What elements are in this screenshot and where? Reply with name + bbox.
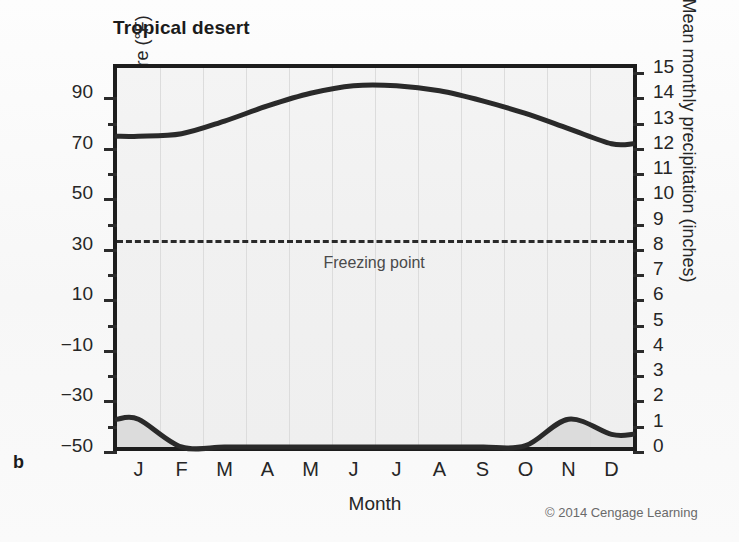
y-axis-right-label: 4	[653, 334, 664, 356]
y-axis-right-tick	[633, 451, 644, 454]
y-axis-right-label: 7	[653, 258, 664, 280]
y-axis-right-label: 9	[653, 208, 664, 230]
y-axis-left-tick	[108, 173, 117, 176]
panel-label: b	[13, 452, 24, 473]
y-axis-left-tick	[108, 325, 117, 328]
y-axis-right-tick	[633, 375, 644, 378]
y-axis-left-label: 70	[25, 132, 93, 154]
temperature-curve	[117, 85, 633, 145]
x-axis-month-label: M	[203, 458, 247, 481]
y-axis-right-label: 14	[653, 81, 674, 103]
y-axis-right-label: 8	[653, 233, 664, 255]
x-axis-month-label: D	[590, 458, 634, 481]
y-axis-right-label: 0	[653, 435, 664, 457]
climate-graph-figure: Tropical desert b Mean monthly temperatu…	[0, 0, 739, 542]
x-axis-month-label: F	[160, 458, 204, 481]
x-axis-month-label: O	[504, 458, 548, 481]
x-axis-month-label: A	[246, 458, 290, 481]
x-axis-month-label: A	[418, 458, 462, 481]
data-curves	[117, 68, 641, 455]
y-axis-left-label: 10	[25, 283, 93, 305]
y-axis-left-tick	[104, 198, 117, 201]
y-axis-right-tick	[633, 224, 644, 227]
y-axis-left-label: −50	[25, 435, 93, 457]
y-axis-right-label: 11	[653, 157, 673, 179]
y-axis-right-label: 15	[653, 56, 674, 78]
y-axis-right-tick	[633, 274, 644, 277]
y-axis-right-tick	[633, 299, 644, 302]
y-axis-right-label: 3	[653, 359, 664, 381]
y-axis-right-tick	[633, 249, 644, 252]
y-axis-right-label: 12	[653, 132, 674, 154]
y-axis-right-label: 2	[653, 384, 664, 406]
y-axis-right-label: 6	[653, 283, 664, 305]
y-axis-right-label: 5	[653, 309, 664, 331]
y-axis-left-tick	[104, 451, 117, 454]
y-axis-left-label: −30	[25, 384, 93, 406]
y-axis-left-tick	[104, 249, 117, 252]
x-axis-month-label: J	[375, 458, 419, 481]
y-axis-left-label: −10	[25, 334, 93, 356]
y-axis-right-tick	[633, 350, 644, 353]
x-axis-month-label: S	[461, 458, 505, 481]
y-axis-right-tick	[633, 97, 644, 100]
x-axis-month-label: J	[332, 458, 376, 481]
y-axis-right-tick	[633, 123, 644, 126]
y-axis-left-tick	[104, 299, 117, 302]
y-axis-right-tick	[633, 325, 644, 328]
y-axis-right-title: Mean monthly precipitation (inches)	[678, 0, 699, 291]
y-axis-right-label: 1	[653, 410, 664, 432]
copyright-notice: © 2014 Cengage Learning	[545, 505, 698, 520]
y-axis-left-tick	[104, 350, 117, 353]
y-axis-left-tick	[108, 123, 117, 126]
y-axis-right-tick	[633, 173, 644, 176]
y-axis-left-label: 90	[25, 81, 93, 103]
x-axis-month-label: M	[289, 458, 333, 481]
y-axis-right-label: 10	[653, 182, 674, 204]
y-axis-left-tick	[104, 400, 117, 403]
y-axis-left-label: 30	[25, 233, 93, 255]
plot-area: Freezing point	[113, 64, 637, 451]
y-axis-right-tick	[633, 198, 644, 201]
y-axis-left-tick	[108, 224, 117, 227]
x-axis-month-label: N	[547, 458, 591, 481]
y-axis-left-tick	[108, 375, 117, 378]
x-axis-month-label: J	[117, 458, 161, 481]
y-axis-left-tick	[108, 426, 117, 429]
y-axis-right-tick	[633, 400, 644, 403]
plot-inner: Freezing point	[117, 68, 633, 447]
y-axis-right-tick	[633, 148, 644, 151]
y-axis-right-tick	[633, 426, 644, 429]
y-axis-left-label: 50	[25, 182, 93, 204]
y-axis-right-tick	[633, 72, 644, 75]
y-axis-left-tick	[104, 97, 117, 100]
y-axis-left-tick	[108, 274, 117, 277]
y-axis-right-label: 13	[653, 107, 674, 129]
y-axis-left-tick	[104, 148, 117, 151]
